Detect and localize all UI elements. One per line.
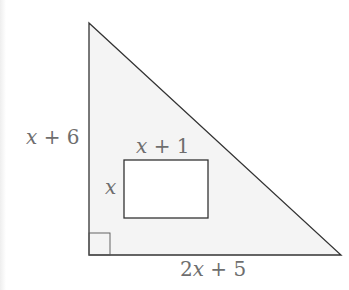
rectangle-height-label: x	[105, 175, 116, 199]
horizontal-leg-label: 2x + 5	[180, 257, 246, 281]
right-triangle	[89, 23, 341, 255]
rectangle-width-label: x + 1	[136, 134, 189, 158]
geometry-diagram: x + 6 x + 1 x 2x + 5	[0, 0, 349, 290]
inner-rectangle	[124, 160, 208, 218]
vertical-leg-label: x + 6	[26, 125, 79, 149]
